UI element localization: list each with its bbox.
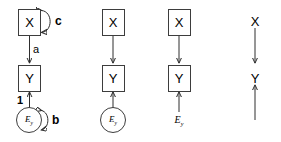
edge-label-one: 1 — [17, 95, 23, 106]
node-x-label: X — [25, 16, 34, 29]
path-diagram-figure: X Y Ey a 1 c b X Y — [0, 0, 281, 142]
node-y: Y — [244, 70, 267, 86]
node-error-y: Ey — [16, 107, 42, 133]
node-y: Y — [102, 65, 125, 92]
self-loop-x — [42, 11, 51, 33]
node-error-y-label: Ey — [25, 114, 33, 126]
node-x: X — [168, 9, 191, 36]
node-error-y-label: Ey — [109, 114, 117, 126]
panel-full-path-diagram-with-coefficients: X Y Ey a 1 c b — [0, 0, 80, 142]
node-x: X — [18, 9, 41, 36]
node-x: X — [102, 9, 125, 36]
node-error-y: Ey — [100, 107, 126, 133]
self-loop-ey — [42, 111, 48, 131]
node-y-label: Y — [25, 72, 34, 85]
node-y-label: Y — [109, 72, 118, 85]
node-y-label: Y — [251, 72, 260, 85]
panel-causal-graph-bare: X Y — [212, 0, 281, 142]
panel-path-diagram-without-coefficients: X Y Ey — [80, 0, 146, 142]
panel-path-diagram-plain-error-term: X Y Ey — [146, 0, 212, 142]
node-y: Y — [168, 65, 191, 92]
loop-label-b: b — [52, 114, 59, 126]
node-error-y-label: Ey — [175, 115, 184, 127]
node-x-label: X — [109, 16, 118, 29]
loop-label-c: c — [55, 15, 62, 27]
node-x: X — [244, 13, 267, 29]
node-y-label: Y — [175, 72, 184, 85]
node-x-label: X — [175, 16, 184, 29]
node-error-y: Ey — [166, 114, 192, 128]
node-y: Y — [18, 65, 41, 92]
node-x-label: X — [251, 15, 260, 28]
edge-label-a: a — [33, 44, 39, 55]
